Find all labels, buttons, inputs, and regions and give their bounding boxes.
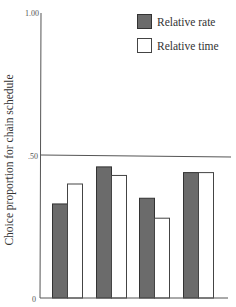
bar-relative-time-group-4	[199, 173, 214, 298]
bar-chart: Choice proportion for chain schedule 1.0…	[0, 0, 236, 307]
legend: Relative rate Relative time	[138, 15, 219, 53]
legend-swatch-relative-rate	[138, 15, 152, 29]
bar-relative-time-group-1	[68, 184, 83, 298]
legend-label-relative-time: Relative time	[157, 40, 219, 52]
bar-relative-rate-group-2	[97, 167, 112, 298]
bar-relative-time-group-2	[112, 175, 127, 298]
y-tick-0: 0	[32, 295, 36, 304]
reference-line-0-50	[41, 155, 231, 157]
legend-swatch-relative-time	[138, 39, 152, 53]
bar-relative-rate-group-3	[140, 198, 155, 298]
bars-group	[53, 167, 214, 298]
bar-relative-rate-group-1	[53, 204, 68, 298]
bar-relative-rate-group-4	[184, 173, 199, 298]
legend-label-relative-rate: Relative rate	[157, 16, 215, 28]
y-axis	[40, 13, 41, 298]
bar-relative-time-group-3	[155, 218, 170, 298]
y-tick-0-50: .50	[28, 152, 38, 161]
y-axis-label: Choice proportion for chain schedule	[3, 74, 16, 245]
y-tick-1-00: 1.00	[25, 9, 39, 18]
